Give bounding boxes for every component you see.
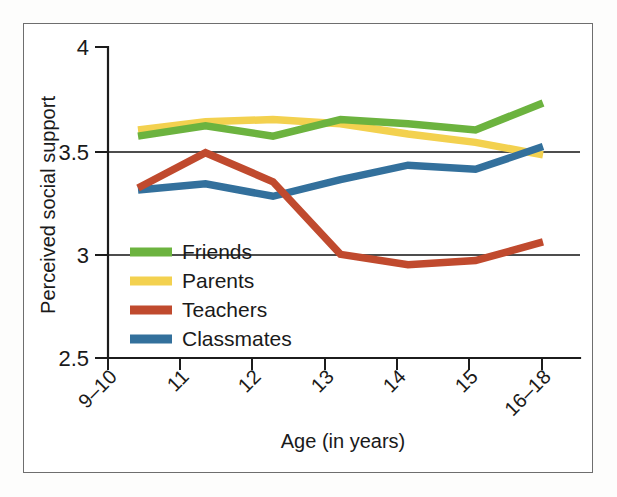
x-axis-title: Age (in years) (281, 430, 406, 452)
y-tick-label-4: 4 (77, 35, 89, 60)
legend-label-teachers: Teachers (182, 298, 267, 321)
y-tick-labels: 4 3.5 3 2.5 (58, 35, 89, 371)
figure-canvas: 4 3.5 3 2.5 9–10 11 12 13 14 15 16–18 Ag… (0, 0, 617, 497)
legend-label-parents: Parents (182, 269, 254, 292)
x-tick-labels: 9–10 11 12 13 14 15 16–18 (74, 365, 555, 420)
y-axis-title: Perceived social support (37, 96, 59, 314)
y-tick-label-3-5: 3.5 (58, 140, 89, 165)
x-tick-label-2: 12 (234, 365, 265, 396)
x-tick-label-4: 14 (379, 365, 410, 396)
y-tick-label-2-5: 2.5 (58, 346, 89, 371)
x-tick-label-1: 11 (163, 365, 193, 395)
y-tick-label-3: 3 (77, 243, 89, 268)
x-tick-label-0: 9–10 (74, 365, 121, 412)
legend-label-friends: Friends (182, 240, 252, 263)
x-tick-label-5: 15 (451, 365, 482, 396)
legend: Friends Parents Teachers Classmates (130, 240, 292, 350)
legend-label-classmates: Classmates (182, 327, 292, 350)
line-chart: 4 3.5 3 2.5 9–10 11 12 13 14 15 16–18 Ag… (0, 0, 617, 497)
x-tick-label-6: 16–18 (500, 365, 555, 420)
x-tick-label-3: 13 (307, 365, 338, 396)
axes (95, 47, 580, 370)
